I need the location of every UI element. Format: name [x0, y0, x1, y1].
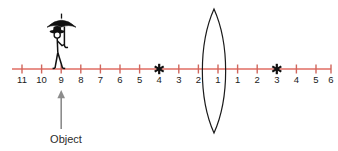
object-pointer-arrow: [57, 90, 65, 129]
optics-diagram-canvas: 1110987654321123456: [0, 0, 338, 151]
axis-tick-label-object-side-7: 7: [98, 74, 103, 85]
hat-crown-icon: [53, 26, 62, 31]
axis-tick-label-image-side-3: 3: [274, 74, 279, 85]
axis-tick-label-image-side-4: 4: [294, 74, 299, 85]
figure-right-leg-icon: [58, 53, 63, 69]
axis-tick-label-image-side-5: 5: [313, 74, 318, 85]
axis-tick-label-object-side-11: 11: [17, 74, 27, 85]
object-caption-label: Object: [50, 133, 82, 145]
axis-tick-label-object-side-9: 9: [59, 74, 64, 85]
converging-lens-icon: [202, 9, 225, 133]
axis-tick-label-object-side-5: 5: [137, 74, 142, 85]
figure-arm-icon: [58, 41, 65, 46]
axis-tick-label-object-side-3: 3: [176, 74, 181, 85]
axis-tick-label-object-side-10: 10: [36, 74, 47, 85]
umbrella-canopy-icon: [47, 20, 76, 27]
axis-tick-label-object-side-4: 4: [157, 74, 162, 85]
axis-tick-label-image-side-2: 2: [255, 74, 260, 85]
figure-left-leg-icon: [55, 53, 58, 69]
object-stick-figure-with-umbrella: [47, 14, 76, 69]
pointer-arrowhead-icon: [57, 90, 65, 98]
figure-head-icon: [54, 32, 60, 38]
figure-torso-icon: [57, 38, 58, 53]
axis-tick-labels: 1110987654321123456: [17, 74, 334, 85]
axis-tick-label-image-side-1: 1: [235, 74, 240, 85]
axis-tick-label-object-side-8: 8: [78, 74, 83, 85]
axis-tick-label-object-side-6: 6: [117, 74, 122, 85]
ray-diagram-svg: 1110987654321123456: [0, 0, 338, 151]
axis-tick-label-object-side-2: 2: [196, 74, 201, 85]
axis-tick-label-object-side-1: 1: [215, 74, 220, 85]
axis-tick-label-image-side-6: 6: [328, 74, 333, 85]
umbrella-shaft-icon: [64, 26, 68, 47]
